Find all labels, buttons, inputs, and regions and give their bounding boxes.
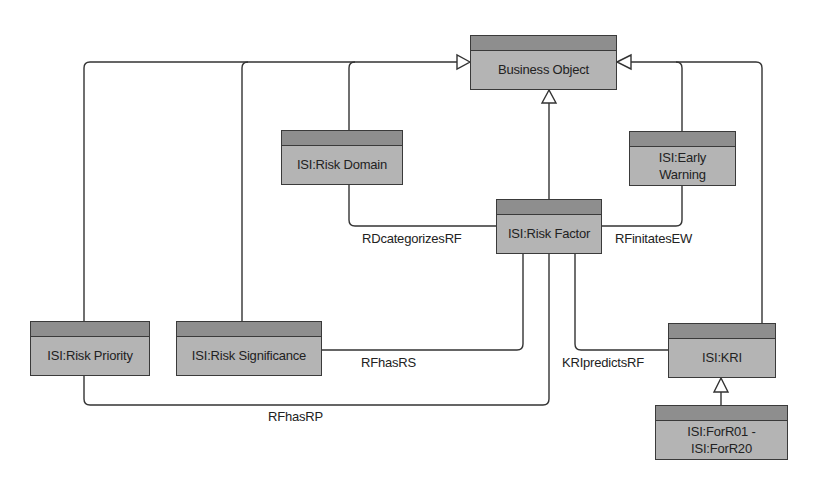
class-label: ISI:KRI [669, 339, 775, 377]
class-forr01-forr20[interactable]: ISI:ForR01 - ISI:ForR20 [655, 405, 788, 460]
gen-risk-significance-line [242, 62, 248, 321]
class-header [282, 131, 402, 146]
gen-arrowhead-right [617, 55, 631, 69]
gen-arrowhead-kri [714, 378, 728, 392]
label-rfhasrp: RFhasRP [268, 409, 323, 424]
class-label: ISI:Risk Factor [497, 215, 601, 253]
class-header [31, 322, 149, 337]
class-label: Business Object [471, 51, 616, 89]
label-rdcategorizesrf: RDcategorizesRF [362, 231, 462, 246]
label-rfinitatesew: RFinitatesEW [615, 231, 692, 246]
label-rfhasrs: RFhasRS [361, 355, 416, 370]
class-label: ISI:Risk Domain [282, 146, 402, 184]
gen-risk-priority-line [84, 62, 457, 321]
class-risk-factor[interactable]: ISI:Risk Factor [496, 199, 602, 254]
class-kri[interactable]: ISI:KRI [668, 323, 776, 378]
gen-arrowhead-left [457, 55, 470, 69]
class-risk-significance[interactable]: ISI:Risk Significance [176, 321, 322, 376]
class-risk-priority[interactable]: ISI:Risk Priority [30, 321, 150, 376]
assoc-kripredictsrf-line [575, 254, 668, 350]
assoc-rfinitatesew-line [602, 186, 682, 226]
class-header [669, 324, 775, 339]
assoc-rdcategorizesrf-line [349, 185, 496, 226]
gen-arrowhead-bottom [542, 90, 556, 103]
class-risk-domain[interactable]: ISI:Risk Domain [281, 130, 403, 185]
class-label: ISI:Risk Significance [177, 337, 321, 375]
class-header [471, 36, 616, 51]
class-early-warning[interactable]: ISI:Early Warning [629, 131, 736, 186]
class-header [177, 322, 321, 337]
class-label: ISI:Risk Priority [31, 337, 149, 375]
class-label: ISI:Early Warning [630, 147, 735, 185]
gen-early-warning-line [676, 62, 682, 131]
class-header [630, 132, 735, 147]
gen-risk-domain-line [349, 62, 355, 130]
assoc-rfhasrs-line [322, 254, 523, 350]
gen-kri-line [631, 62, 762, 323]
label-kripredictsrf: KRIpredictsRF [562, 355, 644, 370]
class-header [656, 406, 787, 421]
class-header [497, 200, 601, 215]
class-business-object[interactable]: Business Object [470, 35, 617, 90]
class-label: ISI:ForR01 - ISI:ForR20 [656, 421, 787, 459]
